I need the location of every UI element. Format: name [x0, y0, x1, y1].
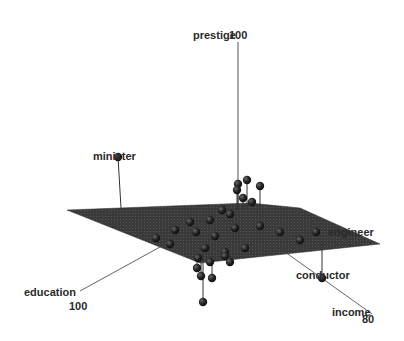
data-point[interactable]: [248, 198, 256, 206]
education-max-tick: 100: [69, 301, 87, 312]
data-point[interactable]: [192, 228, 200, 236]
data-point[interactable]: [211, 232, 219, 240]
minister-drop-line: [118, 157, 121, 208]
data-point[interactable]: [193, 264, 201, 272]
data-point[interactable]: [208, 274, 216, 282]
data-point[interactable]: [296, 236, 304, 244]
data-point[interactable]: [186, 218, 194, 226]
point-label-engineer: engineer: [328, 227, 374, 238]
data-point[interactable]: [206, 216, 214, 224]
data-point[interactable]: [256, 182, 264, 190]
data-point[interactable]: [276, 228, 284, 236]
prestige-max-tick: 100: [229, 30, 247, 41]
point-label-conductor: conductor: [296, 270, 350, 281]
data-point[interactable]: [206, 258, 214, 266]
data-point[interactable]: [239, 194, 247, 202]
data-point-engineer[interactable]: [312, 228, 320, 236]
data-point[interactable]: [199, 298, 207, 306]
data-point[interactable]: [243, 176, 251, 184]
education-axis-label: education: [24, 287, 76, 298]
data-point[interactable]: [256, 222, 264, 230]
data-point[interactable]: [218, 206, 226, 214]
point-label-minister: minister: [93, 151, 136, 162]
data-point[interactable]: [226, 210, 234, 218]
data-point[interactable]: [231, 224, 239, 232]
data-point[interactable]: [241, 244, 249, 252]
data-point[interactable]: [152, 234, 160, 242]
data-point[interactable]: [197, 272, 205, 280]
data-point[interactable]: [226, 258, 234, 266]
data-point[interactable]: [171, 226, 179, 234]
3d-scatter-plot: prestige 100 minister engineer conductor…: [0, 0, 404, 341]
data-point[interactable]: [201, 244, 209, 252]
income-axis: [285, 252, 372, 314]
data-point[interactable]: [166, 240, 174, 248]
income-max-tick: 80: [362, 314, 374, 325]
data-point[interactable]: [194, 254, 202, 262]
data-point[interactable]: [233, 186, 241, 194]
